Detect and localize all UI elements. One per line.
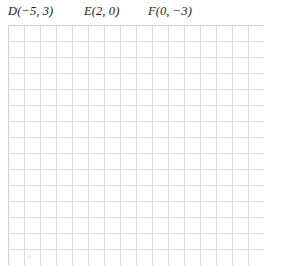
grid-lines-svg <box>8 25 264 265</box>
point-d-text: D(−5, 3) <box>8 4 53 18</box>
points-label-row: D(−5, 3) E(2, 0) F(0, −3) <box>0 0 284 24</box>
point-f-text: F(0, −3) <box>148 4 192 18</box>
scan-artifact-speck <box>28 255 31 258</box>
point-label-d: D(−5, 3) <box>8 3 53 19</box>
worksheet-canvas: D(−5, 3) E(2, 0) F(0, −3) <box>0 0 284 280</box>
point-e-text: E(2, 0) <box>84 4 119 18</box>
point-label-e: E(2, 0) <box>84 3 119 19</box>
point-label-f: F(0, −3) <box>148 3 192 19</box>
plotting-grid[interactable] <box>8 25 264 265</box>
